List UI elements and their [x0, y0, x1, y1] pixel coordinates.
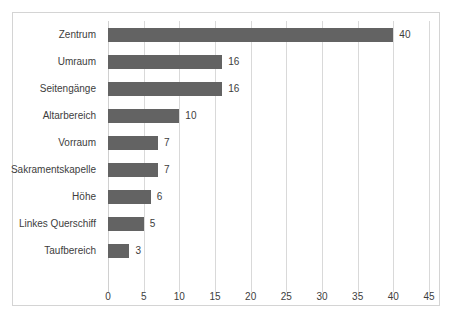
bar-value-label: 5 — [150, 219, 156, 229]
bar — [108, 190, 151, 204]
category-label: Zentrum — [13, 28, 103, 42]
category-label: Umraum — [13, 55, 103, 69]
bar-row: 5 — [108, 217, 429, 231]
bar — [108, 28, 393, 42]
bar-value-label: 40 — [399, 30, 410, 40]
category-label: Höhe — [13, 190, 103, 204]
bar — [108, 55, 222, 69]
x-axis-tick-labels: 051015202530354045 — [108, 292, 429, 308]
category-axis-labels: ZentrumUmraumSeitengängeAltarbereichVorr… — [13, 21, 103, 264]
x-tick-label: 15 — [209, 292, 220, 302]
bar — [108, 163, 158, 177]
plot-area: 4016161077653 — [108, 21, 429, 292]
bar-row: 3 — [108, 244, 429, 258]
bar-row: 7 — [108, 163, 429, 177]
bar-value-label: 6 — [157, 192, 163, 202]
bar — [108, 217, 144, 231]
category-label: Sakramentskapelle — [13, 163, 103, 177]
category-label: Taufbereich — [13, 244, 103, 258]
x-tick-label: 0 — [105, 292, 111, 302]
bar-value-label: 10 — [185, 111, 196, 121]
bar-value-label: 16 — [228, 84, 239, 94]
bar — [108, 136, 158, 150]
category-label: Vorraum — [13, 136, 103, 150]
category-label: Altarbereich — [13, 109, 103, 123]
x-tick-label: 20 — [245, 292, 256, 302]
bar — [108, 82, 222, 96]
gridline-45 — [429, 21, 430, 292]
bar-value-label: 7 — [164, 165, 170, 175]
bar — [108, 244, 129, 258]
x-tick-label: 45 — [423, 292, 434, 302]
category-label: Seitengänge — [13, 82, 103, 96]
bar-row: 10 — [108, 109, 429, 123]
x-tick-label: 10 — [174, 292, 185, 302]
x-tick-label: 25 — [281, 292, 292, 302]
bar — [108, 109, 179, 123]
bar-chart-figure: ZentrumUmraumSeitengängeAltarbereichVorr… — [12, 12, 440, 306]
x-tick-label: 30 — [316, 292, 327, 302]
x-tick-label: 35 — [352, 292, 363, 302]
x-tick-label: 40 — [388, 292, 399, 302]
bar-value-label: 7 — [164, 138, 170, 148]
bar-rows: 4016161077653 — [108, 21, 429, 264]
bar-row: 40 — [108, 28, 429, 42]
bar-row: 6 — [108, 190, 429, 204]
bar-row: 16 — [108, 82, 429, 96]
category-label: Linkes Querschiff — [13, 217, 103, 231]
bar-value-label: 3 — [135, 246, 141, 256]
bar-row: 7 — [108, 136, 429, 150]
bar-value-label: 16 — [228, 57, 239, 67]
bar-row: 16 — [108, 55, 429, 69]
x-tick-label: 5 — [141, 292, 147, 302]
